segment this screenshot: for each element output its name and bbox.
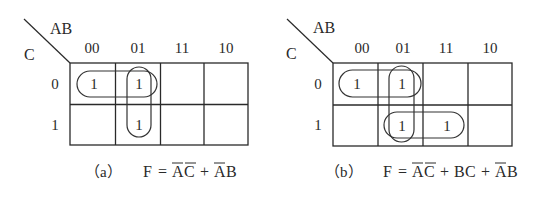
term2-letter1: A: [214, 163, 226, 180]
term1-letter2: C: [184, 163, 195, 180]
term1-letter2: C: [424, 163, 435, 180]
cell-r0-c01: 1: [398, 76, 406, 92]
col-label-00: 00: [85, 40, 100, 56]
group-loop-row1: [384, 112, 464, 138]
col-label-00: 00: [355, 40, 370, 56]
row-var-label: C: [286, 45, 297, 62]
row-label-0: 0: [314, 76, 322, 92]
col-label-11: 11: [439, 40, 453, 56]
cell-r1-c11: 1: [443, 118, 451, 134]
caption-F: F: [143, 163, 152, 180]
caption-plus: +: [440, 163, 449, 180]
col-var-label: AB: [50, 20, 72, 37]
cell-r0-c01: 1: [135, 76, 143, 92]
term2-letter1: B: [454, 163, 465, 180]
term1-letter1: A: [412, 163, 424, 180]
term1-letter1: A: [172, 163, 184, 180]
caption-a: （a） F = A C + A B: [85, 163, 237, 180]
cell-r1-c01: 1: [398, 118, 406, 134]
col-label-01: 01: [396, 40, 411, 56]
row-var-label: C: [24, 46, 35, 63]
row-label-1: 1: [51, 117, 59, 133]
term3-letter2: B: [507, 163, 518, 180]
kmap-b: AB C 00 01 11 10 0 1 1 1 1 1 （b） F =: [286, 19, 518, 180]
term2-letter2: B: [226, 163, 237, 180]
col-label-01: 01: [131, 40, 146, 56]
cell-r0-c00: 1: [353, 76, 361, 92]
kmap-a: AB C 00 01 11 10 0 1 1 1 1 （a） F = A: [24, 19, 248, 180]
cell-r0-c00: 1: [90, 76, 98, 92]
col-label-10: 10: [219, 40, 234, 56]
caption-plus: +: [200, 163, 209, 180]
col-label-10: 10: [483, 40, 498, 56]
caption-eq: =: [158, 163, 167, 180]
caption-prefix: （a）: [85, 164, 122, 180]
cell-r1-c01: 1: [135, 117, 143, 133]
caption-b: （b） F = A C + B C + A B: [325, 163, 518, 180]
group-loop-row0: [339, 70, 421, 97]
row-label-1: 1: [314, 117, 322, 133]
karnaugh-maps-figure: AB C 00 01 11 10 0 1 1 1 1 （a） F = A: [0, 0, 547, 199]
caption-F: F: [383, 163, 392, 180]
caption-plus: +: [481, 163, 490, 180]
row-label-0: 0: [51, 76, 59, 92]
caption-eq: =: [398, 163, 407, 180]
col-label-11: 11: [175, 40, 189, 56]
term2-letter2: C: [465, 163, 476, 180]
col-var-label: AB: [313, 19, 335, 36]
term3-letter1: A: [495, 163, 507, 180]
caption-prefix: （b）: [325, 164, 363, 180]
group-loop-horizontal: [77, 71, 157, 97]
